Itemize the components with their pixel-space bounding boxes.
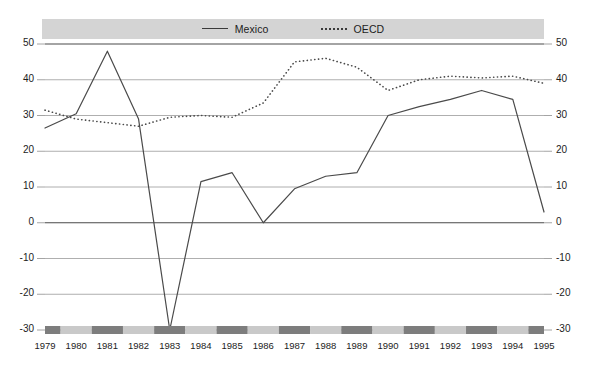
x-tick-label: 1979 — [28, 340, 62, 351]
y-tick-label-right: 0 — [556, 216, 582, 227]
x-tick-label: 1984 — [184, 340, 218, 351]
x-band-segment — [279, 326, 310, 334]
solid-line-icon — [202, 25, 228, 33]
x-tick-label: 1992 — [433, 340, 467, 351]
gridlines — [45, 44, 544, 330]
x-band-segment — [248, 326, 279, 334]
legend-label: OECD — [354, 23, 385, 35]
x-band-segment — [528, 326, 544, 334]
x-tick-label: 1994 — [496, 340, 530, 351]
x-band-segment — [310, 326, 341, 334]
y-tick-label-right: 20 — [556, 144, 582, 155]
x-band-segment — [372, 326, 403, 334]
y-tick-label-right: 40 — [556, 73, 582, 84]
y-tick-label-left: -30 — [8, 323, 34, 334]
x-band-segment — [92, 326, 123, 334]
x-tick-label: 1988 — [309, 340, 343, 351]
x-band-segment — [123, 326, 154, 334]
y-tick-label-left: -20 — [8, 287, 34, 298]
x-tick-label: 1986 — [246, 340, 280, 351]
y-tick-label-left: -10 — [8, 252, 34, 263]
y-tick-label-right: 30 — [556, 109, 582, 120]
series-line-mexico — [45, 51, 544, 330]
x-tick-label: 1991 — [402, 340, 436, 351]
x-tick-label: 1993 — [465, 340, 499, 351]
y-tick-label-left: 10 — [8, 180, 34, 191]
legend-item-mexico: Mexico — [202, 23, 269, 35]
x-tick-label: 1995 — [527, 340, 561, 351]
x-tick-label: 1983 — [153, 340, 187, 351]
y-tick-label-right: -10 — [556, 252, 582, 263]
series-line-oecd — [45, 58, 544, 126]
x-band-segment — [154, 326, 185, 334]
x-tick-label: 1989 — [340, 340, 374, 351]
x-band-segment — [217, 326, 248, 334]
legend-item-oecd: OECD — [321, 23, 385, 35]
x-band-segment — [61, 326, 92, 334]
y-tick-label-left: 30 — [8, 109, 34, 120]
y-tick-label-left: 40 — [8, 73, 34, 84]
y-tick-label-right: 10 — [556, 180, 582, 191]
x-band-segment — [45, 326, 61, 334]
data-series-group — [45, 51, 544, 330]
y-tick-label-right: -20 — [556, 287, 582, 298]
chart-plot-area — [0, 0, 595, 367]
x-tick-label: 1980 — [59, 340, 93, 351]
legend-label: Mexico — [235, 23, 269, 35]
x-band-segment — [497, 326, 528, 334]
x-band-segment — [435, 326, 466, 334]
x-axis-band — [45, 326, 544, 334]
x-tick-label: 1987 — [278, 340, 312, 351]
x-tick-label: 1985 — [215, 340, 249, 351]
chart-legend: MexicoOECD — [42, 19, 544, 39]
y-tick-label-left: 0 — [8, 216, 34, 227]
x-tick-label: 1982 — [122, 340, 156, 351]
x-band-segment — [404, 326, 435, 334]
x-band-segment — [185, 326, 216, 334]
x-band-segment — [466, 326, 497, 334]
y-tick-label-left: 50 — [8, 37, 34, 48]
dotted-line-icon — [321, 25, 347, 33]
x-tick-label: 1981 — [90, 340, 124, 351]
x-tick-label: 1990 — [371, 340, 405, 351]
y-tick-label-left: 20 — [8, 144, 34, 155]
y-tick-label-right: 50 — [556, 37, 582, 48]
y-tick-label-right: -30 — [556, 323, 582, 334]
x-band-segment — [341, 326, 372, 334]
chart-container: MexicoOECD 50403020100-10-20-30 50403020… — [0, 0, 595, 367]
